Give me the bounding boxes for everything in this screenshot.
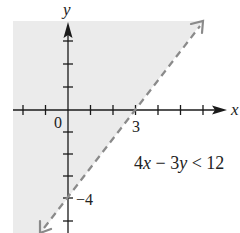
constant-c: 12 [206, 153, 224, 173]
var-y: y [177, 153, 187, 173]
coef-a: 4 [134, 153, 143, 173]
y-intercept-label: −4 [76, 191, 93, 208]
x-intercept-label: 3 [132, 118, 140, 135]
var-x: x [142, 153, 151, 173]
op-minus: − [151, 153, 170, 173]
inequality-label: 4x − 3y < 12 [134, 153, 224, 173]
op-less-than: < [187, 153, 206, 173]
coef-b: 3 [170, 153, 179, 173]
y-axis-label: y [61, 0, 71, 19]
origin-label: 0 [54, 114, 62, 131]
x-axis-label: x [230, 100, 239, 119]
inequality-graph: y x 0 3 −4 4x − 3y < 12 [0, 0, 240, 233]
shaded-region [13, 21, 203, 233]
